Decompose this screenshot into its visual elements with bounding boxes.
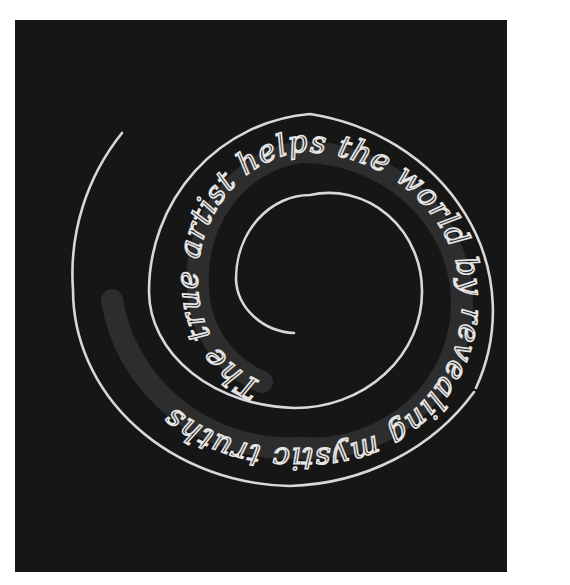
neon-spiral: The true artist helps the world by revea… [0, 0, 570, 585]
